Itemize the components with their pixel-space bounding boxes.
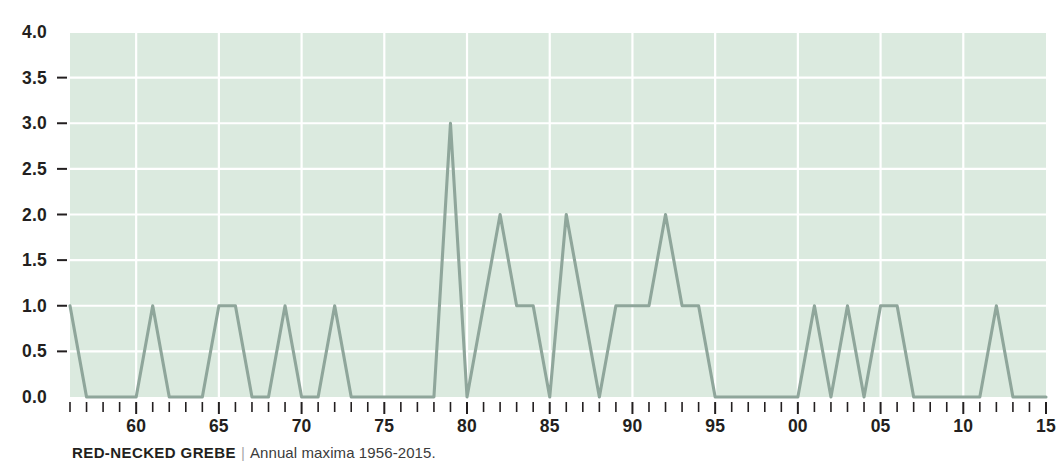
caption-subtitle: Annual maxima 1956-2015. <box>250 444 436 461</box>
caption-species: RED-NECKED GREBE <box>72 444 236 461</box>
chart-caption: RED-NECKED GREBE|Annual maxima 1956-2015… <box>72 444 436 461</box>
y-axis-tick-label: 3.0 <box>3 113 47 134</box>
x-axis-tick-label: 70 <box>282 416 322 437</box>
y-axis-tick-label: 2.0 <box>3 205 47 226</box>
x-axis-tick-label: 85 <box>530 416 570 437</box>
x-axis-ticks <box>70 402 1046 414</box>
x-axis-tick-label: 90 <box>612 416 652 437</box>
caption-divider: | <box>236 444 250 461</box>
x-axis-tick-label: 10 <box>943 416 983 437</box>
y-axis-tick-label: 0.5 <box>3 341 47 362</box>
y-axis-tick-label: 1.5 <box>3 250 47 271</box>
x-axis-tick-label: 15 <box>1026 416 1056 437</box>
chart-plot-area <box>0 0 1056 475</box>
y-axis-tick-label: 4.0 <box>3 22 47 43</box>
y-axis-ticks <box>57 78 67 352</box>
y-axis-tick-label: 2.5 <box>3 159 47 180</box>
x-axis-tick-label: 60 <box>116 416 156 437</box>
x-axis-tick-label: 65 <box>199 416 239 437</box>
x-axis-tick-label: 80 <box>447 416 487 437</box>
y-axis-tick-label: 0.0 <box>3 387 47 408</box>
chart-figure: 0.00.51.01.52.02.53.03.54.0 606570758085… <box>0 0 1056 475</box>
x-axis-tick-label: 75 <box>364 416 404 437</box>
y-axis-tick-label: 1.0 <box>3 296 47 317</box>
x-axis-tick-label: 05 <box>861 416 901 437</box>
x-axis-tick-label: 00 <box>778 416 818 437</box>
y-axis-tick-label: 3.5 <box>3 68 47 89</box>
x-axis-tick-label: 95 <box>695 416 735 437</box>
